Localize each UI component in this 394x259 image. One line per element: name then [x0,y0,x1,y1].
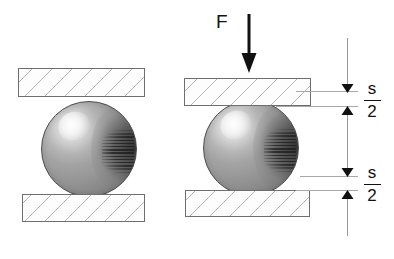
dimension-upper-denominator: 2 [360,103,384,121]
dimension-arrow-lower-up-icon [341,190,354,199]
left-sphere [41,101,137,197]
dimension-arrow-upper-down-icon [341,84,354,93]
right-top-plate [184,78,311,106]
dimension-arrow-upper-up-icon [341,106,354,115]
dimension-label-lower: s 2 [360,164,384,205]
right-bottom-plate [185,190,310,217]
dimension-arrow-lower-down-icon [341,168,354,177]
sphere-rim-shading [42,102,136,196]
dimension-upper-numerator: s [360,80,384,98]
deformed-sphere-clip [203,104,299,196]
dimension-label-upper: s 2 [360,80,384,121]
dimension-lower-numerator: s [360,164,384,182]
left-bottom-plate [22,194,145,222]
sphere-rim-shading [204,104,298,195]
dimension-witness-line-middle [347,106,348,176]
force-label: F [216,12,228,31]
left-top-plate [18,68,145,97]
right-sphere [203,104,299,196]
dimension-lower-denominator: 2 [360,187,384,205]
compression-diagram: F [0,0,394,259]
force-arrow-icon [239,14,259,74]
